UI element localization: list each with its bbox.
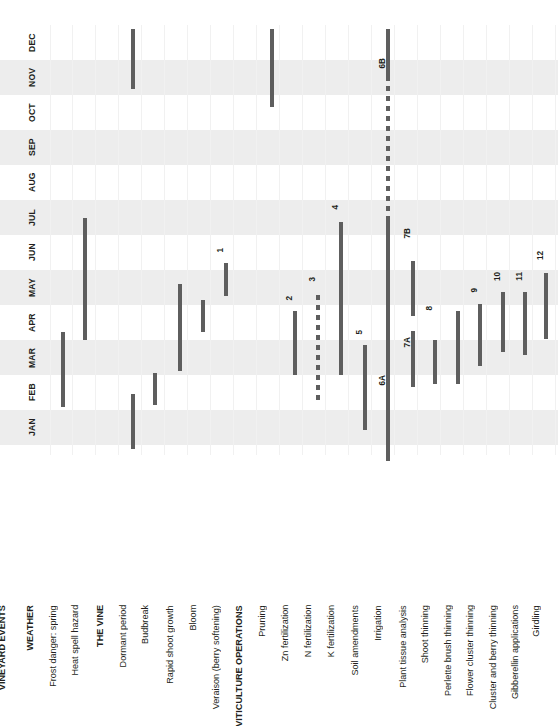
- activity-bar: [339, 222, 343, 375]
- gridline-vertical: [279, 25, 280, 455]
- bar-number-tag: 10: [494, 272, 502, 281]
- activity-axis-label: Bloom: [189, 605, 198, 631]
- activity-axis-label: Shoot thinning: [421, 605, 430, 663]
- gridline-vertical: [532, 25, 533, 455]
- gridline-vertical: [50, 25, 51, 455]
- month-label-apr: APR: [14, 305, 49, 340]
- activity-axis-label: Perlette brush thinning: [444, 605, 453, 696]
- bar-number-tag: 5: [356, 330, 364, 335]
- activity-axis-label: THE VINE: [96, 605, 105, 647]
- gridline-vertical: [394, 25, 395, 455]
- gridline-vertical: [72, 25, 73, 455]
- gridline-vertical: [509, 25, 510, 455]
- month-label-sep: SEP: [14, 130, 49, 165]
- gridline-vertical: [371, 25, 372, 455]
- activity-bar: [61, 332, 65, 407]
- gridline-vertical: [95, 25, 96, 455]
- gridline-vertical: [325, 25, 326, 455]
- activity-axis-label: Budbreak: [141, 605, 150, 644]
- gridline-vertical: [463, 25, 464, 455]
- gridline-vertical: [118, 25, 119, 455]
- month-label-jul: JUL: [14, 200, 49, 235]
- activity-axis-label: N fertilization: [304, 605, 313, 658]
- activity-axis-label: Rapid shoot growth: [166, 605, 175, 683]
- bar-number-tag: 9: [471, 288, 479, 293]
- activity-axis-label: Dormant period: [119, 605, 128, 668]
- activity-axis-label: Gibberellin applications: [511, 605, 520, 699]
- bar-number-tag: 8: [426, 306, 434, 311]
- month-label-dec: DEC: [14, 25, 49, 60]
- activity-bar: [224, 263, 228, 296]
- activity-axis-label: Zn fertilization: [281, 605, 290, 662]
- month-label-jan: JAN: [14, 410, 49, 445]
- gridline-vertical: [233, 25, 234, 455]
- activity-axis-label: Soil amendments: [351, 605, 360, 675]
- month-label-feb: FEB: [14, 375, 49, 410]
- activity-bar: [83, 218, 87, 340]
- activity-axis-label: Flower cluster thinning: [466, 605, 475, 696]
- activity-bar: [131, 394, 135, 449]
- gridline-vertical: [555, 25, 556, 455]
- activity-bar: [131, 29, 135, 89]
- activity-axis-label: WEATHER: [26, 605, 35, 650]
- activity-axis-label: Frost danger: spring: [49, 605, 58, 686]
- activity-axis-label: Cluster and berry thinning: [489, 605, 498, 709]
- activity-bar: [523, 292, 527, 355]
- month-label-nov: NOV: [14, 60, 49, 95]
- month-label-may: MAY: [14, 270, 49, 305]
- gridline-vertical: [302, 25, 303, 455]
- gridline-vertical: [486, 25, 487, 455]
- gridline-vertical: [187, 25, 188, 455]
- activity-axis-label: Veraison (berry softening): [212, 605, 221, 709]
- bar-number-tag: 7A: [404, 337, 412, 347]
- activity-bar: [456, 311, 460, 384]
- bar-number-tag: 3: [309, 277, 317, 282]
- activity-bar: [386, 218, 390, 461]
- activity-bar: [501, 292, 505, 352]
- activity-axis-label: Plant tissue analysis: [399, 605, 408, 687]
- bar-number-tag: 2: [286, 296, 294, 301]
- month-label-aug: AUG: [14, 165, 49, 200]
- activity-bar: [316, 295, 320, 405]
- activity-bar: [178, 284, 182, 371]
- gridline-vertical: [164, 25, 165, 455]
- bar-number-tag: 6B: [379, 58, 387, 68]
- activity-bar: [433, 340, 437, 384]
- activity-bar: [386, 29, 390, 81]
- bar-number-tag: 11: [516, 272, 524, 281]
- activity-bar: [411, 261, 415, 316]
- activity-bar: [201, 300, 205, 332]
- bar-number-tag: 12: [537, 251, 545, 260]
- bar-number-tag: 7B: [404, 228, 412, 238]
- activity-axis-label: VITICULTURE OPERATIONS: [235, 605, 244, 726]
- activity-bar: [270, 29, 274, 107]
- activity-axis-label: Irrigation: [374, 605, 383, 640]
- activity-bar: [363, 345, 367, 430]
- activity-bar: [478, 304, 482, 366]
- activity-axis-label: Heat spell hazard: [71, 605, 80, 676]
- gridline-vertical: [348, 25, 349, 455]
- gridline-vertical: [417, 25, 418, 455]
- gridline-vertical: [440, 25, 441, 455]
- month-label-oct: OCT: [14, 95, 49, 130]
- month-label-jun: JUN: [14, 235, 49, 270]
- gridline-vertical: [210, 25, 211, 455]
- activity-axis-label: Girdling: [532, 605, 541, 636]
- bar-number-tag: 4: [332, 205, 340, 210]
- activity-axis-label: Pruning: [258, 605, 267, 636]
- activity-axis-label: VINEYARD EVENTS: [0, 605, 7, 690]
- activity-axis-label: K fertilization: [327, 605, 336, 657]
- gridline-vertical: [141, 25, 142, 455]
- bar-number-tag: 6A: [379, 375, 387, 385]
- bar-number-tag: 1: [217, 248, 225, 253]
- month-label-mar: MAR: [14, 340, 49, 375]
- activity-bar: [293, 311, 297, 375]
- activity-bar: [544, 273, 548, 339]
- gridline-vertical: [256, 25, 257, 455]
- activity-bar: [153, 373, 157, 405]
